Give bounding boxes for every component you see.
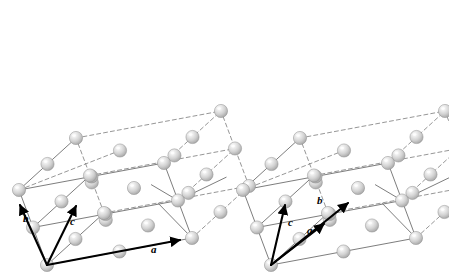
corner-atom xyxy=(409,231,422,244)
atom-sphere xyxy=(409,231,422,244)
axis-vector-a-label: a xyxy=(151,243,157,255)
atom-specular-highlight xyxy=(116,147,120,150)
atom-specular-highlight xyxy=(310,172,314,175)
face-atom xyxy=(186,130,199,143)
cell-diagonal-top xyxy=(243,151,344,191)
atom-sphere xyxy=(265,157,278,170)
atom-specular-highlight xyxy=(268,160,272,163)
atom-sphere xyxy=(157,156,170,169)
atom-specular-highlight xyxy=(324,209,328,212)
face-atom xyxy=(337,144,350,157)
atom-specular-highlight xyxy=(296,235,300,238)
atom-sphere xyxy=(185,231,198,244)
atoms-layer xyxy=(12,104,449,271)
cell-edge-back xyxy=(300,111,445,138)
atom-sphere xyxy=(171,194,184,207)
corner-atom xyxy=(381,156,394,169)
atom-sphere xyxy=(97,206,110,219)
atom-specular-highlight xyxy=(441,107,445,110)
atom-sphere xyxy=(186,130,199,143)
atom-specular-highlight xyxy=(239,186,243,189)
atom-sphere xyxy=(293,131,306,144)
corner-atom xyxy=(83,169,96,182)
corner-atom xyxy=(395,194,408,207)
face-atom xyxy=(69,232,82,245)
cell-edge-back xyxy=(76,111,221,138)
corner-atom xyxy=(250,221,263,234)
cell-diagonal-top xyxy=(19,151,120,191)
atom-specular-highlight xyxy=(184,189,188,192)
atom-sphere xyxy=(214,205,227,218)
atom-sphere xyxy=(365,219,378,232)
face-atom xyxy=(113,144,126,157)
face-atom xyxy=(55,195,68,208)
axis-vector-a: a xyxy=(47,240,180,265)
atom-sphere xyxy=(438,205,449,218)
atom-specular-highlight xyxy=(130,184,134,187)
atom-sphere xyxy=(127,181,140,194)
atom-sphere xyxy=(424,168,437,181)
atom-specular-highlight xyxy=(72,134,76,137)
corner-atom xyxy=(214,104,227,117)
atom-sphere xyxy=(337,144,350,157)
atom-sphere xyxy=(236,183,249,196)
axis-vector-a-arrow xyxy=(47,240,180,265)
atom-sphere xyxy=(214,104,227,117)
atom-sphere xyxy=(41,157,54,170)
atom-specular-highlight xyxy=(253,224,257,227)
cell-edge-vertical xyxy=(445,111,449,186)
atom-specular-highlight xyxy=(412,234,416,237)
cell-diagonal-bottom xyxy=(158,204,192,238)
corner-atom xyxy=(97,206,110,219)
atom-sphere xyxy=(250,221,263,234)
atom-specular-highlight xyxy=(441,208,445,211)
face-atom xyxy=(141,219,154,232)
atom-specular-highlight xyxy=(340,248,344,251)
corner-atom xyxy=(171,194,184,207)
axis-vector-b-label: b xyxy=(317,194,323,206)
atom-specular-highlight xyxy=(203,171,207,174)
axis-vector-a-label: a xyxy=(307,224,313,236)
atom-sphere xyxy=(55,195,68,208)
atom-sphere xyxy=(141,219,154,232)
corner-atom xyxy=(69,131,82,144)
atom-specular-highlight xyxy=(394,152,398,155)
atom-specular-highlight xyxy=(188,234,192,237)
atom-sphere xyxy=(83,169,96,182)
face-atom xyxy=(365,219,378,232)
atom-specular-highlight xyxy=(86,172,90,175)
corner-atom xyxy=(236,183,249,196)
atom-specular-highlight xyxy=(189,133,193,136)
face-atom xyxy=(214,205,227,218)
atom-specular-highlight xyxy=(398,197,402,200)
corner-atom xyxy=(321,206,334,219)
atom-specular-highlight xyxy=(72,235,76,238)
corner-atom xyxy=(157,156,170,169)
axis-vector-b: b xyxy=(20,205,47,265)
atom-sphere xyxy=(321,206,334,219)
atom-sphere xyxy=(69,131,82,144)
atom-specular-highlight xyxy=(174,197,178,200)
atom-specular-highlight xyxy=(160,159,164,162)
face-atom xyxy=(41,157,54,170)
face-atom xyxy=(200,168,213,181)
corner-atom xyxy=(185,231,198,244)
atom-specular-highlight xyxy=(44,160,48,163)
axis-vector-b-label: b xyxy=(23,212,29,224)
atom-sphere xyxy=(228,142,241,155)
atom-sphere xyxy=(307,169,320,182)
atom-specular-highlight xyxy=(427,171,431,174)
corner-atom xyxy=(307,169,320,182)
atom-sphere xyxy=(351,181,364,194)
axis-vector-c-label: c xyxy=(288,216,293,228)
atom-specular-highlight xyxy=(231,145,235,148)
atom-specular-highlight xyxy=(413,133,417,136)
atom-specular-highlight xyxy=(340,147,344,150)
face-atom xyxy=(265,157,278,170)
atom-specular-highlight xyxy=(15,186,19,189)
crystal-diagram-canvas: bcabac xyxy=(0,0,449,280)
atom-sphere xyxy=(337,245,350,258)
face-atom xyxy=(424,168,437,181)
face-atom xyxy=(127,181,140,194)
atom-specular-highlight xyxy=(100,209,104,212)
